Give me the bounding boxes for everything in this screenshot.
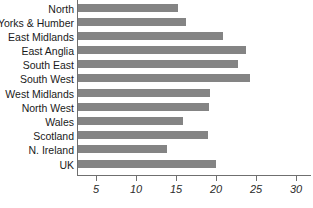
category-label: North West bbox=[22, 102, 74, 114]
category-label: Yorks & Humber bbox=[0, 17, 74, 29]
x-axis-tick-label: 20 bbox=[210, 183, 222, 195]
bar bbox=[78, 18, 186, 26]
bar bbox=[78, 117, 183, 125]
x-axis-tick bbox=[296, 176, 297, 181]
category-label: West Midlands bbox=[5, 88, 74, 100]
x-axis-tick bbox=[216, 176, 217, 181]
y-axis-line bbox=[77, 0, 78, 175]
category-label: East Anglia bbox=[21, 45, 74, 57]
x-axis-tick bbox=[136, 176, 137, 181]
bar bbox=[78, 103, 209, 111]
x-axis-tick-label: 10 bbox=[130, 183, 142, 195]
category-label: South East bbox=[23, 59, 74, 71]
category-label: UK bbox=[59, 159, 74, 171]
x-axis-tick bbox=[176, 176, 177, 181]
bar bbox=[78, 89, 210, 97]
bars-container bbox=[78, 0, 313, 174]
category-label: East Midlands bbox=[8, 31, 74, 43]
bar bbox=[78, 160, 216, 168]
category-label: Scotland bbox=[33, 130, 74, 142]
bar bbox=[78, 74, 250, 82]
bar bbox=[78, 60, 238, 68]
bar bbox=[78, 131, 208, 139]
category-axis-labels: North Yorks & Humber East Midlands East … bbox=[0, 0, 76, 174]
x-axis-tick-label: 5 bbox=[93, 183, 99, 195]
x-axis-tick bbox=[256, 176, 257, 181]
bar bbox=[78, 145, 167, 153]
x-axis-tick-label: 30 bbox=[290, 183, 302, 195]
category-label: Wales bbox=[45, 116, 74, 128]
x-axis-tick-label: 15 bbox=[170, 183, 182, 195]
bar bbox=[78, 32, 223, 40]
x-axis-tick-label: 25 bbox=[250, 183, 262, 195]
category-label: N. Ireland bbox=[28, 144, 74, 156]
bar bbox=[78, 46, 246, 54]
category-label: South West bbox=[20, 73, 74, 85]
plot-area: North Yorks & Humber East Midlands East … bbox=[0, 0, 313, 208]
x-axis-line bbox=[77, 175, 311, 176]
category-label: North bbox=[48, 3, 74, 15]
bar bbox=[78, 4, 178, 12]
x-axis-tick bbox=[96, 176, 97, 181]
bar-chart: North Yorks & Humber East Midlands East … bbox=[0, 0, 313, 208]
